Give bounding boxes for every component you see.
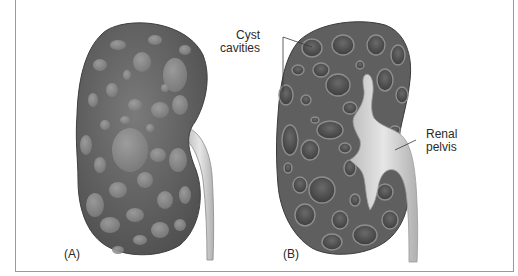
renal-pelvis-label: Renal pelvis — [426, 128, 457, 154]
cyst-label-line2: cavities — [220, 42, 260, 55]
panel-b-label: (B) — [283, 247, 299, 261]
renal-label-line2: pelvis — [426, 141, 457, 154]
kidney-b — [277, 22, 418, 262]
panel-a-label: (A) — [64, 247, 80, 261]
kidney-a — [76, 23, 213, 260]
